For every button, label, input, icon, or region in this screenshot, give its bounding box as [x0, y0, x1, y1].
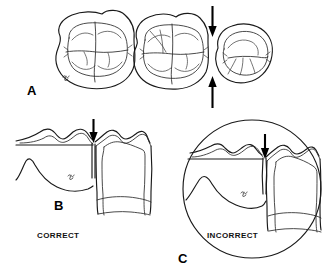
- panel-c-letter: C: [178, 251, 188, 266]
- figure-illustration: A: [0, 0, 325, 277]
- panel-b-right-tooth: [95, 130, 152, 215]
- contact-arrow-bottom: [208, 76, 216, 108]
- panel-c-group: INCORRECT C: [178, 120, 321, 266]
- figure-root: A: [0, 0, 325, 277]
- tooth-premolar-right: [215, 24, 272, 83]
- panel-b-group: B CORRECT: [16, 119, 152, 240]
- panel-b-letter: B: [54, 198, 63, 213]
- panel-c-left-tooth: [186, 144, 266, 208]
- contact-arrow-top: [208, 6, 216, 37]
- panel-c-contact-line: [262, 158, 263, 194]
- caption-incorrect: INCORRECT: [207, 231, 258, 240]
- panel-b-left-tooth: [16, 129, 93, 191]
- tooth-molar-middle: [134, 13, 209, 89]
- panel-a-group: A: [27, 6, 272, 108]
- caption-correct: CORRECT: [37, 231, 79, 240]
- tooth-molar-left: [56, 10, 135, 88]
- panel-c-right-tooth: [266, 145, 321, 232]
- panel-b-contact-arrow: [89, 119, 97, 143]
- panel-a-letter: A: [27, 83, 37, 98]
